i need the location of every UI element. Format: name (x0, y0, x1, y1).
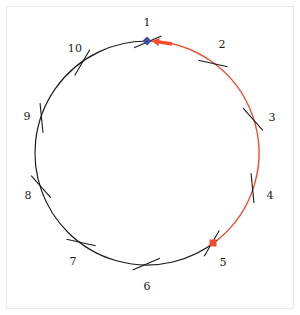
base-arc-path (35, 41, 217, 265)
tick-mark-3 (243, 108, 263, 130)
tick-mark-8 (31, 176, 51, 198)
tick-mark-7 (67, 239, 96, 245)
tick-label-7: 7 (69, 256, 76, 267)
end-marker-square-icon (210, 240, 217, 247)
tick-label-6: 6 (143, 281, 150, 292)
circle-diagram-canvas (0, 0, 300, 315)
tick-mark-2 (198, 60, 227, 66)
tick-label-5: 5 (219, 257, 226, 268)
tick-label-1: 1 (143, 17, 150, 28)
tick-label-8: 8 (24, 190, 31, 201)
start-marker-diamond-icon (143, 37, 152, 46)
tick-label-10: 10 (68, 43, 82, 54)
tick-label-3: 3 (268, 112, 275, 123)
tick-mark-group (31, 36, 263, 270)
figure-root: 12345678910 (0, 0, 300, 315)
highlighted-arc-path (147, 41, 259, 240)
tick-label-9: 9 (23, 111, 30, 122)
tick-label-2: 2 (218, 39, 225, 50)
tick-label-4: 4 (266, 190, 273, 201)
